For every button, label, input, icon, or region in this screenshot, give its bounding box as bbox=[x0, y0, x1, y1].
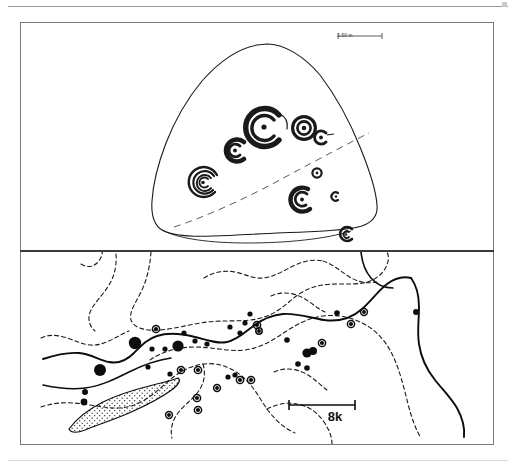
motif-small-cup-and-ring bbox=[312, 168, 321, 177]
header-rule bbox=[8, 6, 508, 7]
panel-distribution-map bbox=[21, 252, 493, 444]
motif-ring-with-tail bbox=[315, 131, 334, 144]
map-scale-label: 8k bbox=[300, 409, 370, 424]
footer-rule bbox=[8, 460, 508, 461]
sites-rock-art bbox=[152, 309, 367, 419]
motif-penannular-spiral bbox=[226, 140, 244, 162]
corner-mark-icon bbox=[502, 2, 507, 7]
motif-open-spiral bbox=[290, 188, 310, 212]
stippled-deposit-area bbox=[69, 378, 179, 432]
motif-concentric-ring bbox=[293, 117, 316, 140]
panel-boulder-plan bbox=[21, 23, 493, 249]
motif-cup-and-ring-large bbox=[246, 108, 288, 146]
motif-crescent-cup bbox=[331, 192, 338, 200]
boulder-plan-drawing bbox=[21, 23, 493, 249]
motif-multi-ring-spiral bbox=[189, 167, 217, 197]
figure-container: 1.50 m bbox=[0, 0, 515, 468]
distribution-map-drawing bbox=[21, 252, 493, 444]
boulder-scale-label: 1.50 m bbox=[316, 33, 374, 38]
